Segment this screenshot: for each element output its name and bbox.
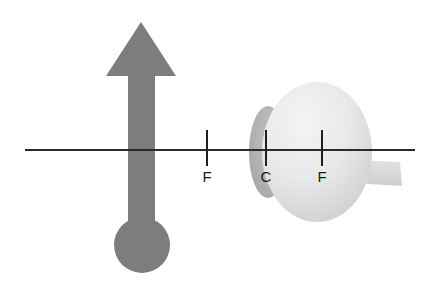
marker-focal-point-left: F	[202, 130, 211, 185]
marker-label-c: C	[261, 168, 272, 185]
optics-diagram-svg: F C F	[0, 0, 433, 292]
diagram-canvas: F C F	[0, 0, 433, 292]
object-arrow	[106, 22, 176, 273]
eyeball-sphere	[262, 82, 372, 222]
arrow-head	[106, 22, 176, 76]
marker-label-f-left: F	[202, 168, 211, 185]
sclera-ellipse	[262, 82, 372, 222]
arrow-shaft	[128, 68, 155, 244]
marker-label-f-right: F	[317, 168, 326, 185]
